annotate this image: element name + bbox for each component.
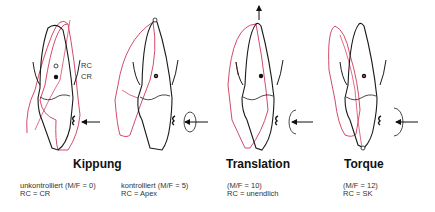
caption-kontrolliert: kontrolliert (M/F = 5) RC = Apex <box>121 182 188 198</box>
tooth-unkontrolliert <box>27 20 100 150</box>
rc-label: RC <box>81 61 92 70</box>
caption-torque: (M/F = 12) RC = SK <box>343 182 378 198</box>
tooth-translation <box>228 6 313 150</box>
cr-label: CR <box>81 72 92 81</box>
tooth-torque <box>329 23 418 150</box>
title-torque: Torque <box>344 157 384 171</box>
caption-translation: (M/F = 10) RC = unendlich <box>227 182 279 198</box>
tooth-kontrolliert <box>115 18 208 150</box>
title-kippung: Kippung <box>73 157 122 171</box>
title-translation: Translation <box>226 157 290 171</box>
caption-unkontrolliert: unkontrolliert (M/F = 0) RC = CR <box>20 182 96 198</box>
